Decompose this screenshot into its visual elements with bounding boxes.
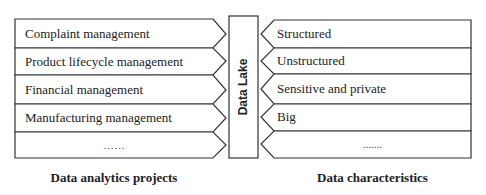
data-lake: Data Lake [229,16,258,158]
data-lake-label: Data Lake [237,59,251,116]
left-item-product-lifecycle-management: Product lifecycle management [25,54,183,70]
left-item-ellipsis: …… [15,139,213,151]
right-item-ellipsis: ....... [274,138,471,150]
left-caption: Data analytics projects [15,170,213,186]
right-item-structured: Structured [277,26,331,42]
right-item-unstructured: Unstructured [277,53,345,69]
left-item-manufacturing-management: Manufacturing management [25,110,172,126]
right-item-big: Big [277,109,296,125]
left-item-complaint-management: Complaint management [25,26,150,42]
right-caption: Data characteristics [274,170,471,186]
right-item-sensitive-and-private: Sensitive and private [277,81,386,97]
left-item-financial-management: Financial management [25,82,143,98]
